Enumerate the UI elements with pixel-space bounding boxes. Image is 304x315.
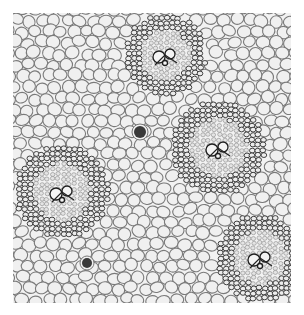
micrograph	[13, 13, 291, 303]
plant-tissue-cross-section	[13, 13, 291, 303]
